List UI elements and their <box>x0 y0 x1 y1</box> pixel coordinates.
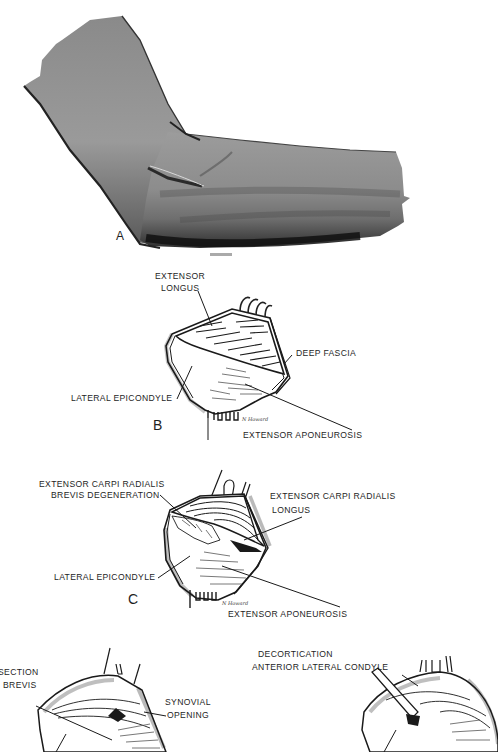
illustrator-signature-b: N Howard <box>242 416 268 422</box>
label-synovial-opening-line2: OPENING <box>167 710 209 721</box>
label-extensor-longus-line2: LONGUS <box>161 283 199 294</box>
panel-a-letter: A <box>116 229 124 243</box>
label-decortication-line2: ANTERIOR LATERAL CONDYLE <box>252 662 388 673</box>
label-lateral-epicondyle-b: LATERAL EPICONDYLE <box>71 393 172 404</box>
label-deep-fascia: DEEP FASCIA <box>296 348 356 359</box>
label-extensor-longus-line1: EXTENSOR <box>155 271 205 282</box>
label-synovial-opening-line1: SYNOVIAL <box>165 697 211 708</box>
label-ecrl-line1: EXTENSOR CARPI RADIALIS <box>270 491 396 502</box>
label-section-brevis-line2: BREVIS <box>3 680 37 691</box>
label-ecrl-line2: LONGUS <box>272 505 310 516</box>
label-ecrb-degeneration-line1: EXTENSOR CARPI RADIALIS <box>39 479 165 490</box>
illustrator-signature-c: N Howard <box>222 600 248 606</box>
label-lateral-epicondyle-c: LATERAL EPICONDYLE <box>54 572 155 583</box>
panel-b-letter: B <box>153 417 162 433</box>
label-decortication-line1: DECORTICATION <box>258 649 333 660</box>
label-section-brevis-line1: SECTION <box>0 667 39 678</box>
panel-a-elbow-illustration <box>0 0 498 260</box>
label-extensor-aponeurosis-b: EXTENSOR APONEUROSIS <box>243 430 362 441</box>
panel-c-letter: C <box>128 591 138 607</box>
label-ecrb-degeneration-line2: BREVIS DEGENERATION <box>51 490 160 501</box>
label-extensor-aponeurosis-c: EXTENSOR APONEUROSIS <box>228 609 347 620</box>
